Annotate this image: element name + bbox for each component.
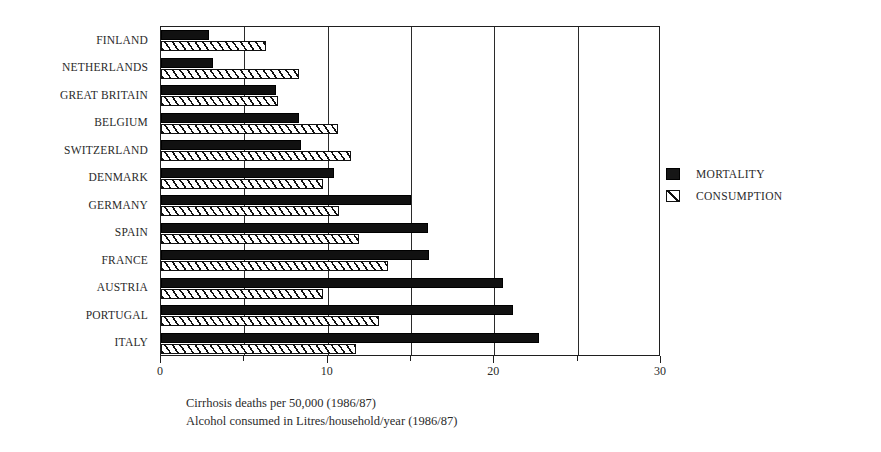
x-tick [577, 356, 578, 361]
bar-mortality-belgium [161, 113, 299, 123]
chart-caption: Cirrhosis deaths per 50,000 (1986/87) Al… [186, 394, 706, 430]
x-tick-label: 20 [463, 364, 523, 379]
caption-line-mortality: Cirrhosis deaths per 50,000 (1986/87) [186, 394, 706, 412]
category-label: ITALY [24, 336, 148, 348]
bar-mortality-germany [161, 195, 411, 205]
category-label: SWITZERLAND [24, 144, 148, 156]
bar-consumption-belgium [161, 124, 338, 134]
category-label: BELGIUM [24, 116, 148, 128]
bar-consumption-france [161, 261, 388, 271]
category-label: SPAIN [24, 226, 148, 238]
cirrhosis-alcohol-bar-chart: FINLANDNETHERLANDSGREAT BRITAINBELGIUMSW… [0, 0, 881, 452]
bar-consumption-netherlands [161, 69, 299, 79]
caption-line-consumption: Alcohol consumed in Litres/household/yea… [186, 412, 706, 430]
bar-mortality-denmark [161, 168, 334, 178]
x-tick-label: 30 [630, 364, 690, 379]
x-tick-label: 0 [130, 364, 190, 379]
bar-mortality-finland [161, 30, 209, 40]
bar-mortality-italy [161, 333, 539, 343]
legend-label-mortality: MORTALITY [696, 168, 765, 180]
bar-mortality-switzerland [161, 140, 301, 150]
bar-mortality-great-britain [161, 85, 276, 95]
legend-item-consumption: CONSUMPTION [666, 185, 866, 207]
category-label: AUSTRIA [24, 281, 148, 293]
x-axis-tick-labels: 0102030 [120, 364, 720, 384]
bar-consumption-denmark [161, 179, 323, 189]
legend-item-mortality: MORTALITY [666, 163, 866, 185]
x-tick [660, 356, 661, 363]
category-label: FRANCE [24, 254, 148, 266]
bar-consumption-great-britain [161, 96, 278, 106]
chart-legend: MORTALITY CONSUMPTION [666, 163, 866, 207]
x-tick-label: 10 [297, 364, 357, 379]
bar-consumption-portugal [161, 316, 379, 326]
category-label: GERMANY [24, 199, 148, 211]
solid-square-icon [666, 168, 680, 180]
x-tick [493, 356, 494, 363]
bar-consumption-italy [161, 344, 356, 354]
category-label: PORTUGAL [24, 309, 148, 321]
x-tick [243, 356, 244, 361]
x-axis-ticks [160, 356, 661, 364]
bar-consumption-finland [161, 41, 266, 51]
category-label: GREAT BRITAIN [24, 89, 148, 101]
bar-consumption-switzerland [161, 151, 351, 161]
category-label: NETHERLANDS [24, 61, 148, 73]
category-axis-labels: FINLANDNETHERLANDSGREAT BRITAINBELGIUMSW… [28, 26, 154, 356]
bar-consumption-germany [161, 206, 339, 216]
bar-mortality-france [161, 250, 429, 260]
x-tick [410, 356, 411, 361]
hatched-square-icon [666, 190, 680, 202]
bar-consumption-austria [161, 289, 323, 299]
bar-mortality-spain [161, 223, 428, 233]
x-tick [327, 356, 328, 363]
bar-consumption-spain [161, 234, 359, 244]
category-label: FINLAND [24, 34, 148, 46]
legend-label-consumption: CONSUMPTION [696, 190, 782, 202]
bar-mortality-netherlands [161, 58, 213, 68]
category-label: DENMARK [24, 171, 148, 183]
bar-mortality-portugal [161, 305, 513, 315]
bars-layer [161, 27, 721, 357]
x-tick [160, 356, 161, 363]
bar-mortality-austria [161, 278, 503, 288]
